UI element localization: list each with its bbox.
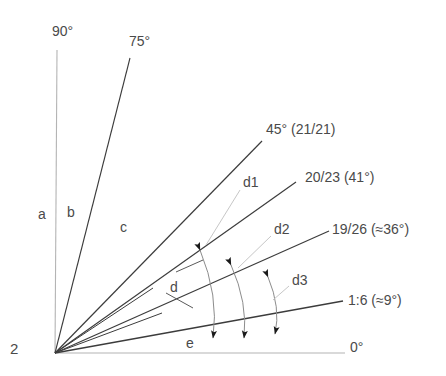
label-ray-90: 90° [52,24,73,38]
minor-ray-lower-line [55,313,162,353]
zone-label-d: d [170,280,178,294]
leader-d-upper-line [176,260,203,272]
zone-label-e: e [186,336,194,350]
dimension-label-d1: d1 [243,175,259,189]
zone-label-a: a [38,207,46,221]
leader-d3-line [273,286,289,300]
diagram-canvas [0,0,446,376]
ray-90-line [55,50,57,353]
leader-d2-line [238,236,271,268]
leader-d1-line [206,190,240,245]
label-ray-19-26: 19/26 (≈36°) [332,222,409,236]
label-ray-0: 0° [350,340,363,354]
label-ray-20-23: 20/23 (41°) [305,170,374,184]
label-ray-1-6: 1:6 (≈9°) [348,293,402,307]
label-ray-45: 45° (21/21) [266,122,335,136]
label-ray-75: 75° [129,34,150,48]
dimension-label-d2: d2 [274,222,290,236]
ray-20-23-line [55,182,296,353]
minor-ray-upper-line [55,288,153,353]
leader-d-lower-line [166,293,193,308]
arc-d2 [231,265,245,338]
zone-label-b: b [67,205,75,219]
dimension-label-d3: d3 [292,273,308,287]
angle-slope-diagram: 90° 75° 45° (21/21) 20/23 (41°) 19/26 (≈… [0,0,446,376]
zone-label-c: c [120,220,127,234]
arc-d3 [268,277,277,334]
figure-corner-number: 2 [10,341,18,356]
